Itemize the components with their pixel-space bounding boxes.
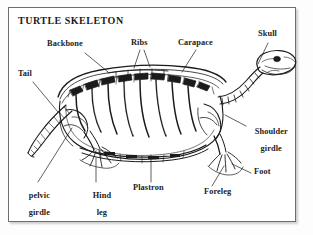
label-carapace: Carapace — [178, 39, 213, 47]
leader-carapace — [182, 50, 196, 72]
foreleg — [208, 134, 243, 175]
label-tail: Tail — [18, 70, 32, 78]
label-shoulder-girdle-line1: Shoulder — [255, 127, 288, 136]
leader-ribs-right — [144, 50, 150, 67]
neck-vertebrae — [218, 67, 263, 105]
shoulder-girdle — [198, 104, 221, 139]
label-pelvic-girdle: pelvic girdle — [20, 184, 50, 226]
label-backbone: Backbone — [47, 40, 83, 48]
page-title: TURTLE SKELETON — [18, 16, 124, 26]
leader-foreleg — [212, 166, 224, 186]
label-foreleg: Foreleg — [204, 188, 231, 196]
label-foot: Foot — [254, 168, 271, 176]
label-pelvic-girdle-line1: pelvic — [29, 191, 50, 200]
label-pelvic-girdle-line2: girdle — [29, 208, 50, 217]
leader-shoulder-girdle — [225, 115, 246, 126]
leader-pelvic-girdle — [38, 128, 72, 182]
leader-tail — [33, 82, 58, 112]
skull — [257, 51, 296, 75]
label-hind-leg-line2: leg — [97, 208, 107, 217]
ribs — [76, 80, 196, 137]
turtle-skeleton-figure: TURTLE SKELETON Backbone Ribs Carapace S… — [0, 0, 313, 235]
label-hind-leg: Hind leg — [84, 184, 111, 226]
label-hind-leg-line1: Hind — [93, 191, 111, 200]
label-skull: Skull — [258, 30, 277, 38]
label-plastron: Plastron — [133, 184, 164, 192]
label-ribs: Ribs — [131, 39, 148, 47]
label-shoulder-girdle: Shoulder girdle — [246, 120, 288, 162]
label-shoulder-girdle-line2: girdle — [261, 144, 282, 153]
skull-eye-socket — [274, 56, 281, 62]
